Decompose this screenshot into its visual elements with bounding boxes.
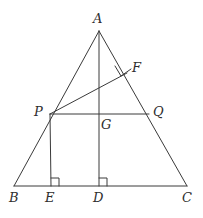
vertex-label-F: F xyxy=(132,61,141,74)
geometry-canvas xyxy=(0,0,203,218)
vertex-label-E: E xyxy=(45,191,55,204)
vertex-label-P: P xyxy=(34,105,43,118)
side-AC xyxy=(99,31,187,186)
side-AB xyxy=(14,31,99,186)
right-angle-at-D xyxy=(99,178,107,186)
vertex-label-G: G xyxy=(101,118,111,131)
vertex-label-D: D xyxy=(93,191,103,204)
perpendicular-PF xyxy=(50,73,127,114)
right-angle-at-F xyxy=(115,66,131,76)
vertex-label-Q: Q xyxy=(153,105,164,118)
vertex-label-B: B xyxy=(9,191,19,204)
geometry-figure: A B C D E P Q F G xyxy=(0,0,203,218)
vertex-label-C: C xyxy=(182,191,192,204)
right-angle-at-E xyxy=(51,178,59,186)
perpendicular-PE xyxy=(50,114,51,186)
vertex-label-A: A xyxy=(93,12,102,25)
